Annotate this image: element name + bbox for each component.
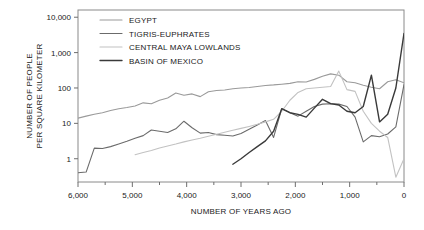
y-tick-label: 10,000 <box>47 13 72 22</box>
x-tick-label: 2,000 <box>285 191 306 200</box>
x-tick-label: 5,000 <box>122 191 143 200</box>
y-axis-title-line-2: PER SQUARE KILOMETER <box>35 44 44 149</box>
population-density-chart: 1101001,00010,0006,0005,0004,0003,0002,0… <box>0 0 424 230</box>
x-tick-label: 1,000 <box>340 191 361 200</box>
legend-label-central-maya-lowlands: CENTRAL MAYA LOWLANDS <box>129 43 241 52</box>
y-tick-label: 1,000 <box>51 49 72 58</box>
series-line-egypt <box>78 74 404 118</box>
x-axis-title: NUMBER OF YEARS AGO <box>191 207 292 216</box>
x-tick-label: 3,000 <box>231 191 252 200</box>
series-line-central-maya-lowlands <box>135 71 404 177</box>
y-tick-label: 1 <box>67 155 72 164</box>
y-tick-label: 100 <box>58 84 72 93</box>
legend-label-egypt: EGYPT <box>129 16 157 25</box>
y-tick-label: 10 <box>62 119 71 128</box>
series-group <box>78 33 404 177</box>
x-tick-label: 0 <box>402 191 407 200</box>
y-axis-title-line-1: NUMBER OF PEOPLE <box>25 53 34 138</box>
legend-label-tigris-euphrates: TIGRIS-EUPHRATES <box>129 30 210 39</box>
x-tick-label: 6,000 <box>68 191 89 200</box>
plot-frame <box>78 10 404 182</box>
x-tick-label: 4,000 <box>177 191 198 200</box>
chart-canvas: 1101001,00010,0006,0005,0004,0003,0002,0… <box>0 0 424 230</box>
legend-label-basin-of-mexico: BASIN OF MEXICO <box>129 57 203 66</box>
series-line-basin-of-mexico <box>233 33 404 164</box>
